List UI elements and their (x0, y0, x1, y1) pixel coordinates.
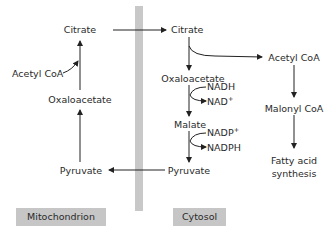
mito-citrate-label: Citrate (64, 24, 96, 35)
nadph-label: NADPH (207, 142, 241, 153)
arrow-acetylcoa-join (63, 61, 78, 73)
fatty-acid-label-1: Fatty acid (271, 155, 317, 166)
malate-label: Malate (174, 119, 206, 130)
nad-label: NAD+ (207, 96, 233, 107)
nadp-label: NADP+ (207, 127, 239, 138)
malonylcoa-label: Malonyl CoA (265, 103, 324, 114)
compartment-cytosol: Cytosol (173, 208, 226, 226)
arrow-citrate-to-acetylcoa (189, 46, 262, 57)
arrow-nadp-cofactor (190, 133, 206, 147)
mito-pyruvate-label: Pyruvate (60, 165, 102, 176)
pathway-arrows (0, 0, 336, 236)
cyto-acetylcoa-label: Acetyl CoA (268, 52, 319, 63)
nadh-label: NADH (207, 81, 235, 92)
cyto-citrate-label: Citrate (171, 24, 203, 35)
arrow-nadh-cofactor (190, 87, 206, 101)
compartment-mitochondrion: Mitochondrion (16, 208, 106, 226)
mito-oxaloacetate-label: Oxaloacetate (48, 94, 111, 105)
mito-acetylcoa-label: Acetyl CoA (12, 68, 63, 79)
cyto-pyruvate-label: Pyruvate (168, 165, 210, 176)
fatty-acid-label-2: synthesis (272, 168, 317, 179)
